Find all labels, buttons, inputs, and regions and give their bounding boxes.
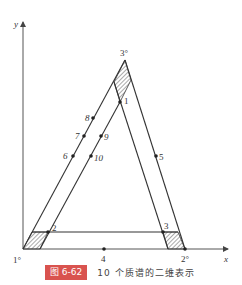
point-10: [89, 154, 93, 158]
figure-caption-text: 10 个质谱的二维表示: [97, 266, 194, 279]
point-label-4: 4: [101, 254, 106, 264]
point-label-8: 8: [85, 113, 90, 123]
point-1: [118, 100, 122, 104]
hatch-right: [163, 232, 185, 249]
inner-right-edge: [114, 82, 168, 249]
point-9: [99, 134, 103, 138]
point-8: [91, 116, 95, 120]
vertex-apex-label: 3°: [120, 48, 129, 58]
point-label-9: 9: [104, 132, 109, 142]
vertex-origin-label: 1°: [13, 255, 22, 265]
figure-caption: 图 6-62 10 个质谱的二维表示: [45, 265, 195, 279]
point-label-7: 7: [75, 131, 80, 141]
vertex-2-dot: [183, 247, 187, 251]
outer-right-edge: [125, 60, 185, 249]
vertex-right-label: 2°: [181, 254, 190, 264]
figure-number-badge: 图 6-62: [45, 265, 87, 280]
outer-left-edge: [23, 60, 125, 249]
point-label-1: 1: [124, 96, 129, 106]
x-axis-label: x: [223, 254, 228, 264]
point-5: [154, 154, 158, 158]
diagram-canvas: y x 1° 2° 3° 1 2 3 4 5 6 7 8 9 10: [0, 0, 242, 285]
point-label-3: 3: [164, 221, 169, 231]
point-label-2: 2: [52, 223, 57, 233]
y-axis-label: y: [13, 19, 18, 29]
point-7: [82, 134, 86, 138]
point-label-6: 6: [63, 151, 68, 161]
point-6: [71, 154, 75, 158]
point-label-10: 10: [94, 153, 104, 163]
point-4: [102, 247, 106, 251]
point-2: [46, 230, 50, 234]
point-label-5: 5: [159, 152, 164, 162]
